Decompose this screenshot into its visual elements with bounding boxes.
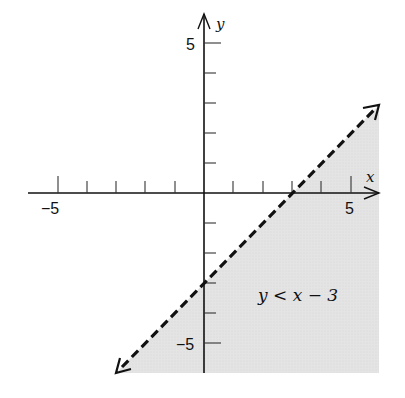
x-tick-label-neg5: −5 [41, 200, 59, 217]
inequality-graph: y x 5 −5 −5 5 y < x − 3 [0, 0, 405, 398]
y-axis-label: y [215, 15, 225, 33]
y-tick-label-5: 5 [186, 36, 195, 53]
inequality-annotation: y < x − 3 [257, 285, 338, 305]
y-tick-label-neg5: −5 [176, 336, 194, 353]
x-tick-label-5: 5 [345, 200, 354, 217]
x-axis-label: x [366, 168, 375, 186]
